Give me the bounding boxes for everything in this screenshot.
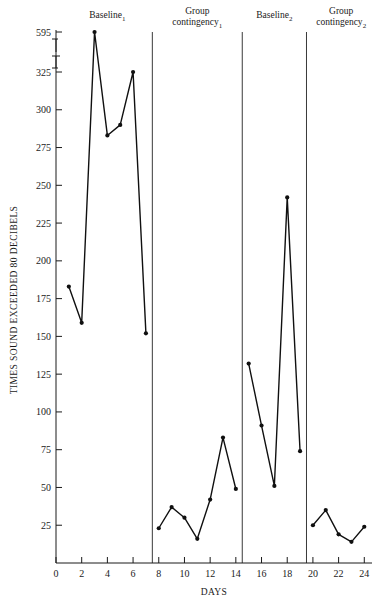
data-point (144, 331, 148, 335)
y-tick-label: 325 (36, 67, 51, 78)
data-point (118, 123, 122, 127)
series-segment-line (249, 197, 300, 486)
x-tick-label: 18 (282, 568, 292, 579)
x-tick-label: 8 (156, 568, 161, 579)
x-tick-label: 14 (231, 568, 241, 579)
y-tick-label: 225 (36, 218, 51, 229)
y-tick-label: 50 (41, 482, 51, 493)
phase-labels: Baseline1Groupcontingency1Baseline2Group… (89, 6, 366, 30)
x-axis-title: DAYS (201, 587, 228, 597)
data-point (80, 321, 84, 325)
data-point (247, 361, 251, 365)
data-point (208, 497, 212, 501)
phase-label: Groupcontingency1 (172, 6, 222, 30)
data-point (92, 30, 96, 34)
chart-container: Baseline1Groupcontingency1Baseline2Group… (0, 0, 380, 603)
line-chart: Baseline1Groupcontingency1Baseline2Group… (0, 0, 380, 603)
phase-label: Baseline2 (256, 10, 293, 23)
y-tick-label: 150 (36, 331, 51, 342)
data-series (67, 30, 367, 544)
y-tick-label: 250 (36, 180, 51, 191)
y-tick-label: 125 (36, 369, 51, 380)
y-tick-label: 300 (36, 104, 51, 115)
y-tick-label: 100 (36, 406, 51, 417)
data-point (272, 484, 276, 488)
series-segment-line (313, 510, 364, 542)
x-tick-label: 20 (308, 568, 318, 579)
data-point (67, 284, 71, 288)
x-tick-label: 4 (105, 568, 110, 579)
data-point (170, 505, 174, 509)
x-tick-label: 6 (131, 568, 136, 579)
phase-label: Groupcontingency2 (316, 6, 366, 30)
y-tick-label: 595 (36, 27, 51, 38)
phase-label: Baseline1 (89, 10, 126, 23)
x-tick-label: 12 (205, 568, 215, 579)
data-point (337, 532, 341, 536)
data-point (324, 508, 328, 512)
x-tick-label: 16 (257, 568, 267, 579)
y-tick-label: 25 (41, 520, 51, 531)
data-point (221, 436, 225, 440)
y-axis-title: TIMES SOUND EXCEEDED 80 DECIBELS (9, 206, 19, 395)
data-point (234, 487, 238, 491)
data-point (298, 449, 302, 453)
data-point (182, 516, 186, 520)
data-point (285, 195, 289, 199)
x-axis: 024681012141618202224 (54, 557, 373, 579)
x-axis-ticks: 024681012141618202224 (54, 557, 370, 579)
data-point (362, 525, 366, 529)
x-tick-label: 2 (79, 568, 84, 579)
data-point (105, 133, 109, 137)
x-tick-label: 24 (359, 568, 369, 579)
x-tick-label: 0 (54, 568, 59, 579)
x-tick-label: 10 (179, 568, 189, 579)
y-axis-ticks: 255075100125150175200225250275300325595 (36, 27, 62, 531)
data-point (195, 537, 199, 541)
series-segment-line (159, 438, 236, 539)
y-tick-label: 75 (41, 444, 51, 455)
data-point (131, 70, 135, 74)
data-point (311, 523, 315, 527)
y-tick-label: 275 (36, 142, 51, 153)
y-tick-label: 200 (36, 255, 51, 266)
data-point (157, 526, 161, 530)
data-point (259, 423, 263, 427)
y-tick-label: 175 (36, 293, 51, 304)
series-segment-line (69, 32, 146, 333)
data-point (349, 540, 353, 544)
x-tick-label: 22 (334, 568, 344, 579)
y-axis: 255075100125150175200225250275300325595 (36, 27, 62, 564)
